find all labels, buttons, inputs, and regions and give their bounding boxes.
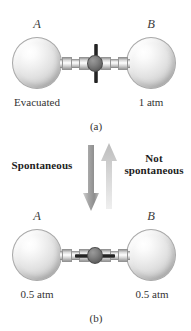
- valve-body-top: [87, 55, 103, 72]
- vessel-condition-a-top: Evacuated: [4, 96, 70, 108]
- tube-collar-1-top: [62, 57, 72, 70]
- flask-a-bottom: [12, 229, 62, 281]
- apparatus-panel-a: [0, 36, 191, 92]
- vessel-letter-a-bottom: A: [12, 209, 62, 223]
- figure-container: A B Evacuated 1 atm (a): [0, 0, 191, 331]
- vessel-condition-a-bottom: 0.5 atm: [5, 288, 69, 300]
- spontaneous-arrow-down-icon: [83, 145, 99, 211]
- vessel-condition-b-bottom: 0.5 atm: [120, 288, 184, 300]
- tube-collar-4-bottom: [118, 249, 128, 262]
- label-not-spontaneous-line1: Not: [145, 152, 162, 164]
- label-spontaneous: Spontaneous: [4, 159, 80, 171]
- label-not-spontaneous-line2: spontaneous: [124, 164, 183, 176]
- flask-b-top: [126, 37, 176, 89]
- flask-b-bottom: [126, 229, 176, 281]
- vessel-letter-b-top: B: [126, 17, 176, 31]
- label-not-spontaneous: Not spontaneous: [118, 152, 190, 177]
- vessel-condition-b-top: 1 atm: [120, 96, 182, 108]
- valve-body-bottom: [87, 247, 103, 264]
- tube-collar-4-top: [118, 57, 128, 70]
- apparatus-panel-b: [0, 228, 191, 284]
- flask-a-top: [12, 37, 62, 89]
- panel-caption-b: (b): [61, 312, 131, 324]
- not-spontaneous-arrow-up-icon: [101, 143, 117, 209]
- panel-caption-a: (a): [61, 120, 131, 132]
- vessel-letter-b-bottom: B: [126, 209, 176, 223]
- tube-collar-1-bottom: [62, 249, 72, 262]
- vessel-letter-a-top: A: [12, 17, 62, 31]
